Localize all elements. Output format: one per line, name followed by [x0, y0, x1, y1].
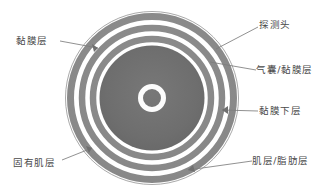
label-mucosa-layer: 黏膜层: [16, 35, 48, 46]
label-probe-head: 探测头: [259, 19, 291, 30]
leader-probe-head: [216, 27, 258, 49]
label-submucosa-layer: 黏膜下层: [259, 105, 301, 116]
lumen-core: [100, 46, 205, 151]
label-muscularis-propria: 固有肌层: [13, 157, 55, 168]
figure-canvas: 黏膜层 固有肌层 探测头 气囊/黏膜层 黏膜下层 肌层/脂肪层: [0, 0, 332, 196]
label-balloon-mucosa-layer: 气囊/黏膜层: [256, 64, 313, 75]
label-muscle-fat-layer: 肌层/脂肪层: [252, 155, 309, 166]
